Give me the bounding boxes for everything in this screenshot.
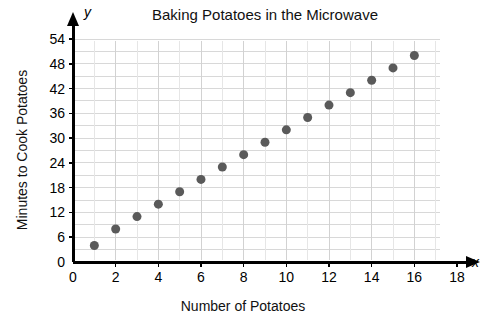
grid-lines — [75, 39, 440, 260]
x-tick-label: 18 — [442, 270, 472, 284]
data-point — [133, 212, 142, 221]
data-point — [410, 51, 419, 60]
x-axis-arrow — [466, 256, 480, 268]
scatter-chart: Baking Potatoes in the Microwave Minutes… — [0, 0, 489, 333]
data-point — [111, 224, 120, 233]
data-point — [197, 175, 206, 184]
data-point — [346, 88, 355, 97]
x-tick-label: 16 — [399, 270, 429, 284]
y-tick-label: 24 — [31, 156, 65, 170]
data-point — [90, 241, 99, 250]
x-tick-label: 8 — [229, 270, 259, 284]
y-tick-label: 6 — [31, 230, 65, 244]
x-tick-label: 4 — [143, 270, 173, 284]
y-tick-label: 54 — [31, 32, 65, 46]
data-point — [218, 163, 227, 172]
y-tick-label: 30 — [31, 131, 65, 145]
data-point — [261, 138, 270, 147]
x-tick-label: 12 — [314, 270, 344, 284]
data-point — [239, 150, 248, 159]
y-tick-label: 42 — [31, 82, 65, 96]
y-tick-label: 36 — [31, 106, 65, 120]
axis-lines — [67, 12, 480, 268]
x-tick-label: 0 — [58, 270, 88, 284]
y-tick-label: 0 — [31, 255, 65, 269]
data-point — [303, 113, 312, 122]
data-point — [325, 101, 334, 110]
x-tick-label: 10 — [271, 270, 301, 284]
data-point — [154, 200, 163, 209]
y-tick-label: 12 — [31, 205, 65, 219]
data-point — [389, 63, 398, 72]
data-point — [282, 125, 291, 134]
data-point — [367, 76, 376, 85]
x-tick-label: 14 — [357, 270, 387, 284]
y-axis-arrow — [67, 12, 79, 26]
data-point — [175, 187, 184, 196]
x-tick-label: 2 — [101, 270, 131, 284]
y-tick-label: 18 — [31, 181, 65, 195]
axis-ticks — [69, 39, 457, 267]
y-tick-label: 48 — [31, 57, 65, 71]
x-tick-label: 6 — [186, 270, 216, 284]
